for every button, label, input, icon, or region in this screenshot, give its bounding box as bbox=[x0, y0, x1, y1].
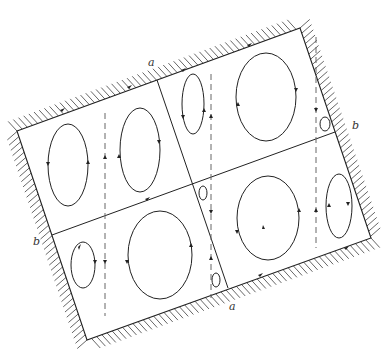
label-a-bottom: a bbox=[229, 300, 236, 313]
vortex-4 bbox=[320, 117, 330, 131]
dashed-lines bbox=[105, 37, 316, 316]
divider-b bbox=[52, 132, 335, 235]
vortex-cells bbox=[48, 53, 352, 299]
vortex-5 bbox=[71, 242, 95, 288]
vortex-diagram: a a b b bbox=[0, 0, 386, 357]
wall-hatching bbox=[7, 19, 380, 348]
vortex-3 bbox=[236, 53, 296, 141]
vortex-8 bbox=[237, 176, 299, 260]
vortex-2 bbox=[182, 74, 204, 134]
vortex-1 bbox=[120, 108, 160, 192]
flow-arrow-markers bbox=[46, 43, 350, 277]
vortex-0 bbox=[48, 124, 88, 206]
vortex-6 bbox=[128, 211, 192, 299]
vortex-10 bbox=[212, 273, 220, 287]
vortex-7 bbox=[199, 186, 207, 200]
label-a-top: a bbox=[148, 56, 155, 69]
container-outline bbox=[17, 28, 371, 340]
label-b-right: b bbox=[352, 119, 359, 132]
label-b-left: b bbox=[33, 235, 40, 248]
